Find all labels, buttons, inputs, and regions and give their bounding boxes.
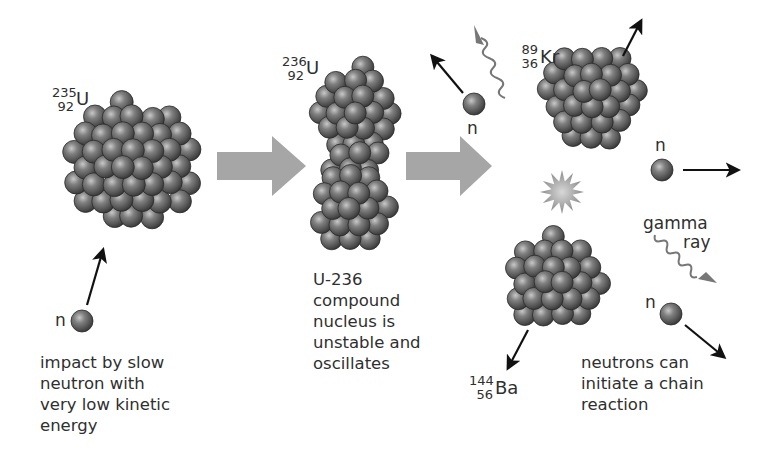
caption-line: unstable and [313,332,421,353]
emitted-neutron-right [651,159,673,181]
barium-nucleus [506,226,611,327]
atomic-number: 36 [520,57,538,70]
gamma-label-line1: gamma [643,213,708,234]
gamma-ray-right-head [698,272,717,283]
incoming-neutron [71,310,93,332]
mass-number: 236 [282,55,304,68]
emitted-neutron-bottom [660,303,682,325]
fission-flash-icon [540,170,584,214]
neutron-label-right: n [655,135,666,156]
gamma-ray-top-head [474,25,484,45]
element-symbol: U [76,90,89,108]
caption-line: impact by slow [40,352,170,373]
neutron-top-arrow [432,56,463,93]
atomic-number: 56 [469,388,493,401]
neutron-label-top: n [467,118,478,139]
neutron-label-incoming: n [55,310,66,331]
caption-line: energy [40,415,170,436]
element-symbol: U [306,59,319,77]
atomic-number: 92 [52,100,74,113]
caption-u236: U-236 compound nucleus is unstable and o… [313,269,421,374]
gamma-label-line2: ray [683,232,710,253]
mass-number: 235 [52,86,74,99]
u235-nucleus [63,91,201,229]
caption-line: nucleus is [313,311,421,332]
atomic-number: 92 [282,69,304,82]
emitted-neutron-top [463,93,485,115]
caption-line: initiate a chain [581,373,704,394]
krypton-arrow [623,21,641,56]
caption-line: reaction [581,394,704,415]
process-arrow-1 [217,136,306,196]
mass-number: 144 [469,374,493,387]
caption-products: neutrons can initiate a chain reaction [581,352,704,415]
caption-u235: impact by slow neutron with very low kin… [40,352,170,436]
element-symbol: Ba [495,379,518,397]
element-symbol: Kr [540,48,559,66]
neutron-label-bottom: n [645,292,656,313]
barium-arrow [508,330,528,368]
process-arrow-2 [406,136,492,196]
caption-line: U-236 [313,269,421,290]
caption-line: very low kinetic [40,394,170,415]
mass-number: 89 [520,43,538,56]
caption-line: compound [313,290,421,311]
u236-nucleus [309,56,401,250]
incoming-neutron-arrow [87,250,103,305]
caption-line: oscillates [313,353,421,374]
gamma-ray-top [481,38,505,98]
caption-line: neutron with [40,373,170,394]
caption-line: neutrons can [581,352,704,373]
